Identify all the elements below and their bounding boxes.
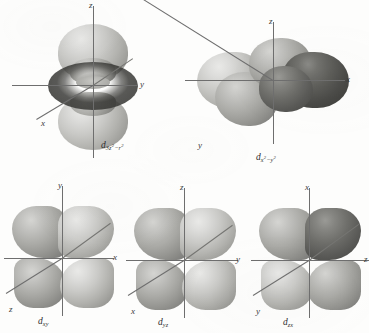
- axis-line-x: [309, 188, 310, 318]
- axis-label-y: y: [236, 255, 240, 264]
- lobe-lower-right: [182, 260, 236, 310]
- axis-label-z: z: [269, 17, 273, 26]
- lobe-upper-right: [305, 208, 361, 260]
- orbital-label-sub: xy: [43, 320, 49, 327]
- axis-label-y: y: [198, 141, 202, 150]
- orbital-panel-dxy: y x z dxy: [0, 176, 125, 333]
- axis-label-y: y: [256, 307, 260, 316]
- axis-label-x: x: [113, 253, 117, 262]
- orbital-plot-dyz: z y x: [120, 176, 245, 333]
- orbital-plot-dzx: x z y: [243, 176, 369, 333]
- orbital-label-dzx: dzx: [283, 318, 293, 328]
- orbital-label-sup2: 2: [121, 143, 124, 148]
- orbital-label-sub: yz: [163, 321, 169, 328]
- axis-label-x: x: [41, 119, 45, 128]
- axis-label-x: x: [131, 307, 135, 316]
- axis-label-y: y: [58, 181, 62, 190]
- axis-label-z: z: [9, 305, 13, 314]
- d-orbital-figure: z y x d3z2−r2 z x y: [0, 0, 369, 333]
- orbital-panel-dzx: x z y dzx: [243, 176, 369, 333]
- lobe-lower-right: [307, 260, 361, 310]
- orbital-plot-dxy: y x z: [0, 176, 125, 333]
- orbital-panel-dyz: z y x dyz: [120, 176, 245, 333]
- axis-label-y: y: [140, 80, 144, 89]
- axis-line-y: [12, 85, 138, 86]
- orbital-label-sub: zx: [288, 321, 294, 328]
- orbital-label-sub-mid: −y: [266, 156, 273, 163]
- orbital-label-sub: 3z: [106, 144, 112, 151]
- lobe-upper-right: [180, 208, 236, 260]
- axis-label-x: x: [346, 75, 350, 84]
- axis-label-x: x: [305, 183, 309, 192]
- axis-label-z: z: [89, 1, 93, 10]
- orbital-plot-dx2y2: z x y: [185, 14, 369, 167]
- axis-line-y: [62, 186, 63, 316]
- orbital-label-sup2: 2: [274, 155, 277, 160]
- orbital-label-dx2y2: dx2−y2: [256, 153, 276, 163]
- orbital-plot-dz2: z y x: [0, 0, 185, 167]
- orbital-label-dz2: d3z2−r2: [101, 141, 124, 151]
- lobe-upper-right: [58, 206, 114, 258]
- axis-label-z: z: [364, 255, 368, 264]
- axis-label-z: z: [180, 183, 184, 192]
- axis-line-z: [184, 188, 185, 318]
- axis-line-x: [185, 80, 345, 81]
- orbital-label-dyz: dyz: [158, 318, 168, 328]
- lobe-center-shadow: [259, 66, 313, 112]
- axis-line-z: [273, 22, 274, 144]
- axis-line-z: [93, 6, 94, 158]
- lobe-lower-right: [60, 258, 114, 308]
- orbital-label-sup1: 2: [264, 155, 267, 160]
- orbital-label-dxy: dxy: [38, 317, 49, 327]
- orbital-panel-dz2: z y x d3z2−r2: [0, 0, 185, 167]
- orbital-panel-dx2y2: z x y dx2−y2: [185, 14, 369, 167]
- orbital-label-sup1: 2: [112, 143, 115, 148]
